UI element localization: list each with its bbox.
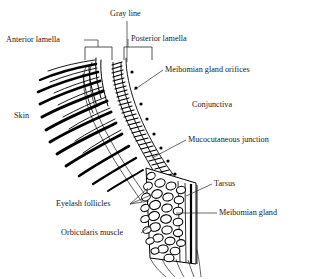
label-eyelash-follicles: Eyelash follicles [56,199,110,208]
label-anterior-lamella: Anterior lamella [6,35,60,44]
label-skin: Skin [14,111,29,120]
label-tarsus: Tarsus [214,179,235,188]
eyelid-cross-section-diagram: Gray line Anterior lamella Posterior lam… [0,0,310,279]
label-orbicularis-muscle: Orbicularis muscle [61,228,123,237]
label-meibomian-gland: Meibomian gland [219,208,277,217]
posterior-lamella-bracket [124,47,152,60]
leader-anterior-lamella [84,40,98,47]
label-meibomian-gland-orifices: Meibomian gland orifices [165,65,250,74]
label-conjunctiva: Conjunctiva [192,100,232,109]
leader-mucocutaneous [152,140,186,158]
eyelashes-group [38,58,143,191]
label-mucocutaneous-junction: Mucocutaneous junction [188,135,269,144]
label-gray-line: Gray line [110,9,141,18]
anterior-lamella-bracket [85,47,112,60]
leader-meibomian-orifices [134,70,163,90]
label-layer: Gray line Anterior lamella Posterior lam… [6,9,277,237]
label-posterior-lamella: Posterior lamella [131,34,187,43]
lamella-brackets [85,47,152,60]
